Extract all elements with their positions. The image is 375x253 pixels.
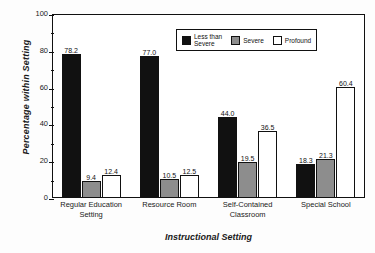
x-axis-tick-labels: Regular EducationSettingResource RoomSel… [52,200,365,219]
y-tick-mark-minor [51,33,54,34]
y-tick-label: 100 [35,10,48,18]
y-tick-label: 0 [44,194,48,202]
y-tick-label: 20 [40,157,48,165]
y-tick-mark [49,15,54,16]
y-tick-mark-minor [51,181,54,182]
legend-label: Less than Severe [194,33,222,47]
y-tick-mark-minor [51,144,54,145]
y-tick-label: 60 [40,84,48,92]
bar-chart: Percentage within Setting 020406080100 7… [0,0,375,253]
x-tick-label: Resource Room [130,200,208,219]
y-tick-mark-minor [51,70,54,71]
y-tick-mark [49,89,54,90]
y-tick-mark [49,52,54,53]
legend-item: Less than Severe [182,33,222,47]
x-axis-title: Instructional Setting [52,232,365,242]
y-axis-tick-labels: 020406080100 [26,0,48,253]
y-tick-mark [49,162,54,163]
legend-swatch-icon [182,36,191,45]
legend-item: Profound [273,36,311,45]
x-tick-label: Special School [287,200,365,219]
y-tick-label: 40 [40,121,48,129]
x-tick-label: Regular EducationSetting [52,200,130,219]
x-tick-label: Self-ContainedClassroom [209,200,287,219]
y-tick-mark [49,125,54,126]
legend-label: Profound [285,37,311,44]
legend-swatch-icon [273,36,282,45]
legend-item: Severe [231,36,264,45]
y-tick-label: 80 [40,47,48,55]
legend-label: Severe [243,37,264,44]
legend-swatch-icon [231,36,240,45]
y-tick-mark-minor [51,107,54,108]
chart-legend: Less than SevereSevereProfound [176,29,317,51]
